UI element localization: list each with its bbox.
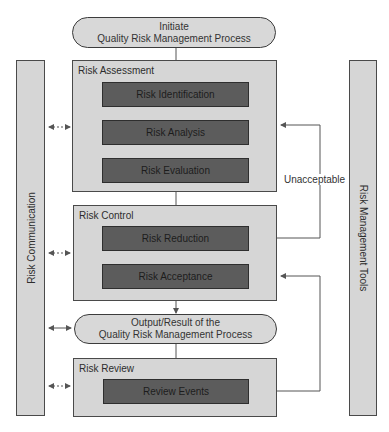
risk-evaluation-label: Risk Evaluation — [141, 165, 210, 176]
initiate-line1: Initiate — [159, 21, 188, 33]
unacceptable-label: Unacceptable — [283, 174, 346, 185]
risk-management-tools-label: Risk Management Tools — [358, 185, 369, 292]
risk-evaluation-step: Risk Evaluation — [102, 158, 249, 183]
output-result-node: Output/Result of the Quality Risk Manage… — [74, 314, 277, 344]
risk-reduction-label: Risk Reduction — [142, 233, 209, 244]
risk-communication-label: Risk Communication — [25, 192, 36, 284]
risk-control-label: Risk Control — [79, 210, 133, 221]
risk-identification-step: Risk Identification — [102, 82, 249, 107]
risk-identification-label: Risk Identification — [136, 89, 214, 100]
output-line1: Output/Result of the — [131, 317, 220, 329]
initiate-process-node: Initiate Quality Risk Management Process — [72, 17, 276, 48]
risk-acceptance-step: Risk Acceptance — [102, 264, 249, 289]
risk-review-label: Risk Review — [79, 363, 134, 374]
risk-management-tools-column: Risk Management Tools — [349, 60, 377, 416]
output-line2: Quality Risk Management Process — [99, 329, 252, 341]
risk-acceptance-label: Risk Acceptance — [139, 271, 213, 282]
review-events-label: Review Events — [143, 386, 209, 397]
risk-communication-column: Risk Communication — [16, 60, 45, 416]
risk-reduction-step: Risk Reduction — [102, 226, 249, 251]
risk-analysis-label: Risk Analysis — [146, 127, 205, 138]
risk-assessment-label: Risk Assessment — [78, 65, 154, 76]
initiate-line2: Quality Risk Management Process — [97, 33, 250, 45]
review-events-step: Review Events — [103, 379, 249, 404]
risk-analysis-step: Risk Analysis — [102, 120, 249, 145]
